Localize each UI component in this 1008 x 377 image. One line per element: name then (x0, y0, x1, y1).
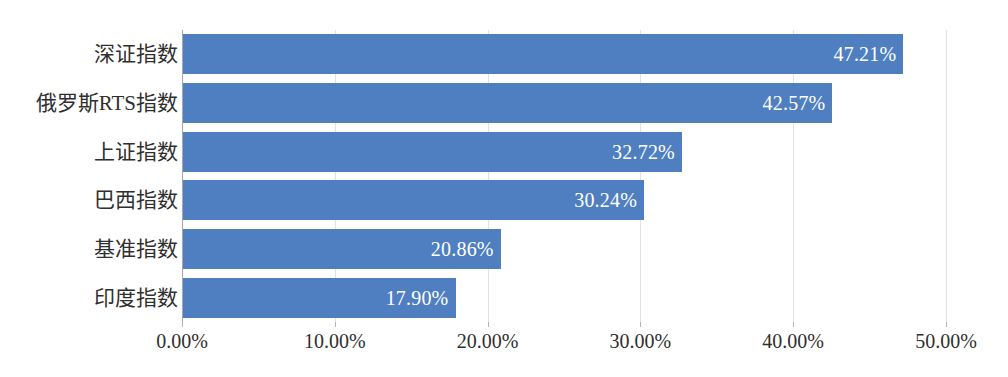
bar-value-label: 47.21% (833, 34, 896, 74)
value-axis-tick-label: 20.00% (418, 330, 558, 353)
gridline-50.00% (946, 30, 947, 322)
tick-mark (335, 322, 336, 327)
bar-value-label: 30.24% (574, 180, 637, 220)
category-label: 巴西指数 (94, 180, 178, 220)
tick-mark (793, 322, 794, 327)
bar-value-label: 32.72% (612, 132, 675, 172)
bar-row: 47.21% (182, 34, 946, 74)
bar-value-label: 42.57% (763, 83, 826, 123)
tick-mark (946, 322, 947, 327)
bar: 42.57% (182, 83, 832, 123)
tick-mark (488, 322, 489, 327)
tick-mark (182, 322, 183, 327)
value-axis-tick-label: 30.00% (570, 330, 710, 353)
category-label: 上证指数 (94, 132, 178, 172)
bar-row: 42.57% (182, 83, 946, 123)
bar: 17.90% (182, 278, 456, 318)
bar: 30.24% (182, 180, 644, 220)
bars-layer: 47.21%42.57%32.72%30.24%20.86%17.90% (182, 30, 946, 322)
bar-row: 17.90% (182, 278, 946, 318)
category-label: 深证指数 (94, 34, 178, 74)
category-label: 基准指数 (94, 229, 178, 269)
bar: 32.72% (182, 132, 682, 172)
value-axis-labels: 0.00%10.00%20.00%30.00%40.00%50.00% (0, 330, 1008, 362)
value-axis-tick-label: 10.00% (265, 330, 405, 353)
value-axis-tick-label: 0.00% (112, 330, 252, 353)
value-axis-line (182, 30, 183, 322)
bar-row: 32.72% (182, 132, 946, 172)
bar: 20.86% (182, 229, 501, 269)
value-axis-tick-label: 50.00% (876, 330, 1008, 353)
tick-mark (640, 322, 641, 327)
plot-area: 47.21%42.57%32.72%30.24%20.86%17.90% (182, 30, 946, 322)
category-label: 印度指数 (94, 278, 178, 318)
bar-value-label: 20.86% (431, 229, 494, 269)
category-label: 俄罗斯RTS指数 (36, 83, 178, 123)
category-axis-labels: 深证指数俄罗斯RTS指数上证指数巴西指数基准指数印度指数 (0, 30, 178, 322)
bar-row: 30.24% (182, 180, 946, 220)
bar-row: 20.86% (182, 229, 946, 269)
value-axis-tick-label: 40.00% (723, 330, 863, 353)
bar: 47.21% (182, 34, 903, 74)
horizontal-bar-chart: 深证指数俄罗斯RTS指数上证指数巴西指数基准指数印度指数 47.21%42.57… (0, 0, 1008, 377)
bar-value-label: 17.90% (386, 278, 449, 318)
